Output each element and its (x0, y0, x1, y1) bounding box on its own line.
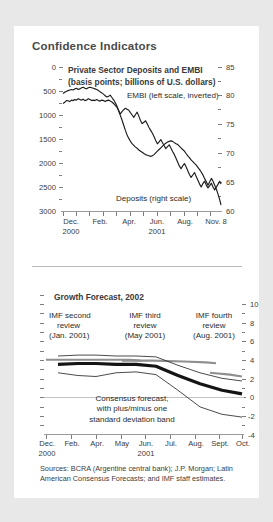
chart2-ytick-8: 8 (250, 319, 254, 328)
chart1-xtick-8 (170, 212, 171, 216)
chart2-xlabel-may: May (115, 439, 129, 448)
chart2-xlabel-aug: Aug. (188, 439, 204, 448)
chart2-ytick-6: 6 (250, 337, 254, 346)
chart1-xtick-10 (197, 212, 198, 216)
chart1-xtick-3 (103, 212, 104, 216)
chart2-ann2-line3: (Jan. 2001) (49, 331, 91, 341)
chart2-x-axis (44, 434, 244, 435)
chart1-xtick-6 (143, 212, 144, 216)
figure-card: Confidence Indicators Private Sector Dep… (14, 26, 259, 498)
chart1-xtick-4 (116, 212, 117, 216)
sources-note: Sources: BCRA (Argentine central bank); … (40, 464, 250, 484)
chart2-xlabel-oct: Oct. (236, 439, 250, 448)
chart1-label-embi: EMBI (left scale, inverted) (127, 91, 219, 100)
chart1-ytick-left-3000: 3000 (24, 207, 56, 216)
chart1-year-2001: 2001 (149, 227, 166, 236)
chart2-xtick-6 (195, 435, 196, 439)
chart2-annotation-imf-fourth-review: IMF fourth review (Aug. 2001) (193, 311, 235, 341)
chart2-xtick-0 (46, 435, 47, 439)
chart1-ytick-right-85: 85 (226, 63, 234, 72)
chart1-xlabel-nov8: Nov. 8 (205, 217, 226, 226)
chart1-xtick-2 (89, 212, 90, 216)
chart2-ytick-2: 2 (250, 375, 254, 384)
chart2-ytick-4: 4 (250, 356, 254, 365)
chart1-ytick-right-80: 80 (226, 91, 234, 100)
chart2-ann2-line1: IMF second (49, 311, 91, 321)
chart2-year-2001: 2001 (138, 449, 155, 458)
chart2-xtick-7 (219, 435, 220, 439)
chart-private-sector-deposits-and-embi: Private Sector Deposits and EMBI (basis … (14, 60, 259, 260)
chart2-xlabel-feb: Feb. (64, 439, 79, 448)
chart1-xlabel-apr: Apr. (122, 217, 136, 226)
chart2-ann3-line2: review (125, 321, 165, 331)
chart2-ytick-0: 0 (250, 393, 254, 402)
chart2-xlabel-jun: Jun. (139, 439, 153, 448)
chart2-ann2-line2: review (49, 321, 91, 331)
chart1-xlabel-dec: Dec. (63, 217, 79, 226)
chart-growth-forecast-2002: Growth Forecast, 2002 10 8 6 4 2 0 -2 -4 (14, 276, 259, 456)
chart2-ann4-line3: (Aug. 2001) (193, 331, 235, 341)
chart2-tick-left-1 (40, 295, 44, 296)
chart2-ytick-10: 10 (250, 300, 258, 309)
chart2-xtick-3 (121, 435, 122, 439)
chart1-year-2000: 2000 (63, 227, 80, 236)
chart2-series-imf-fourth-review (210, 373, 242, 377)
chart2-xlabel-apr: Apr. (90, 439, 104, 448)
chart2-annc-line3: standard deviation band (89, 415, 174, 425)
chart1-xlabel-jun: Jun. (150, 217, 164, 226)
chart1-ytick-right-70: 70 (226, 149, 234, 158)
chart2-xtick-4 (145, 435, 146, 439)
chart2-xlabel-sept: Sept. (211, 439, 229, 448)
chart1-xlabel-aug: Aug. (177, 217, 193, 226)
chart2-title: Growth Forecast, 2002 (54, 292, 144, 302)
chart1-series-deposits (63, 87, 221, 205)
chart2-ann3-line1: IMF third (125, 311, 165, 321)
chart2-xtick-1 (71, 435, 72, 439)
chart2-ytick-neg2: -2 (248, 412, 255, 421)
chart1-xtick-7 (157, 212, 158, 216)
chart1-xtick-9 (184, 212, 185, 216)
chart1-label-deposits: Deposits (right scale) (116, 194, 191, 203)
figure-title: Confidence Indicators (32, 40, 157, 52)
chart2-ann4-line1: IMF fourth (193, 311, 235, 321)
chart2-annc-line1: Consensus forecast, (89, 394, 174, 404)
chart2-annotation-imf-third-review: IMF third review (May 2001) (125, 311, 165, 341)
panel-divider (32, 266, 242, 267)
chart2-annotation-imf-second-review: IMF second review (Jan. 2001) (49, 311, 91, 341)
chart1-xlabel-feb: Feb. (92, 217, 107, 226)
chart1-ytick-left-500: 500 (24, 87, 56, 96)
chart2-xtick-5 (170, 435, 171, 439)
chart1-ytick-left-2000: 2000 (24, 159, 56, 168)
chart1-ytick-left-0: 0 (24, 63, 56, 72)
chart1-series-embi (63, 99, 221, 190)
chart1-ytick-right-75: 75 (226, 120, 234, 129)
chart2-xlabel-jul: Jul. (165, 439, 177, 448)
chart2-xtick-8 (242, 435, 243, 439)
chart2-annc-line2: with plus/minus one (89, 404, 174, 414)
chart2-ann4-line2: review (193, 321, 235, 331)
chart2-annotation-consensus-forecast: Consensus forecast, with plus/minus one … (89, 394, 174, 425)
chart1-ytick-right-65: 65 (226, 178, 234, 187)
chart2-year-2000: 2000 (39, 449, 56, 458)
chart1-ytick-left-1500: 1500 (24, 135, 56, 144)
chart1-plot-area (61, 67, 222, 211)
chart1-ytick-right-60: 60 (226, 207, 234, 216)
chart1-ytick-left-2500: 2500 (24, 183, 56, 192)
chart1-xtick-0 (63, 212, 64, 216)
chart2-xtick-2 (96, 435, 97, 439)
chart1-xtick-11 (210, 212, 211, 216)
chart2-xlabel-dec: Dec. (39, 439, 55, 448)
chart2-series-consensus-forecast (58, 364, 242, 394)
chart1-xtick-1 (76, 212, 77, 216)
chart1-ytick-left-1000: 1000 (24, 111, 56, 120)
chart2-ann3-line3: (May 2001) (125, 331, 165, 341)
chart1-xtick-5 (130, 212, 131, 216)
